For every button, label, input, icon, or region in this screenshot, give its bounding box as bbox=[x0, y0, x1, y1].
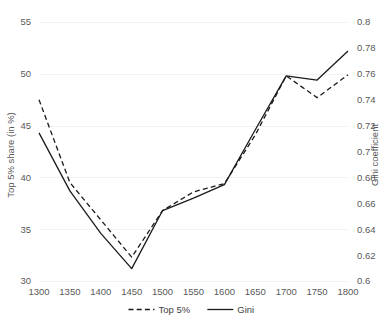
legend-label: Top 5% bbox=[159, 304, 191, 315]
y-axis-right-tick-label: 0.76 bbox=[357, 68, 376, 79]
x-axis-tick-label: 1400 bbox=[90, 286, 111, 297]
x-axis-tick-label: 1600 bbox=[214, 286, 235, 297]
x-axis-tick-label: 1500 bbox=[152, 286, 173, 297]
chart-canvas: 303540455055 0.60.620.640.660.680.70.720… bbox=[0, 0, 390, 328]
y-axis-left-title: Top 5% share (in %) bbox=[5, 112, 16, 198]
y-axis-right-tick-label: 0.78 bbox=[357, 42, 376, 53]
x-axis-tick-labels: 1300135014001450150015501600165017001750… bbox=[28, 286, 358, 297]
x-axis-tick-label: 1350 bbox=[59, 286, 80, 297]
x-axis-tick-label: 1550 bbox=[183, 286, 204, 297]
legend-label: Gini bbox=[237, 304, 254, 315]
y-axis-right-tick-label: 0.6 bbox=[357, 275, 370, 286]
y-axis-left-tick-label: 35 bbox=[20, 224, 31, 235]
y-axis-right-title: Gini coefficient bbox=[369, 124, 380, 186]
y-axis-left-tick-label: 30 bbox=[20, 275, 31, 286]
x-axis-tick-label: 1300 bbox=[28, 286, 49, 297]
x-axis-tick-label: 1750 bbox=[307, 286, 328, 297]
y-axis-left-tick-label: 55 bbox=[20, 16, 31, 27]
y-axis-right-tick-label: 0.66 bbox=[357, 198, 376, 209]
chart-background bbox=[0, 0, 390, 328]
y-axis-right-tick-label: 0.74 bbox=[357, 94, 376, 105]
x-axis-tick-label: 1450 bbox=[121, 286, 142, 297]
x-axis-tick-label: 1800 bbox=[337, 286, 358, 297]
x-axis-tick-label: 1650 bbox=[245, 286, 266, 297]
x-axis-tick-label: 1700 bbox=[276, 286, 297, 297]
y-axis-left-tick-label: 40 bbox=[20, 172, 31, 183]
y-axis-left-tick-label: 45 bbox=[20, 120, 31, 131]
line-chart: 303540455055 0.60.620.640.660.680.70.720… bbox=[0, 0, 390, 328]
y-axis-left-tick-label: 50 bbox=[20, 68, 31, 79]
y-axis-right-tick-label: 0.8 bbox=[357, 16, 370, 27]
y-axis-right-tick-label: 0.64 bbox=[357, 224, 376, 235]
y-axis-right-tick-label: 0.62 bbox=[357, 250, 376, 261]
